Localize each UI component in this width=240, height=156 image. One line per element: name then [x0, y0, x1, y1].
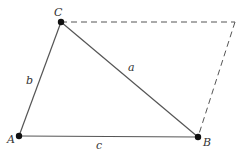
vertex-b-label: B [202, 136, 211, 149]
vertex-c-point [58, 19, 64, 25]
dashed-line-right [198, 22, 235, 137]
side-c [19, 136, 198, 137]
vertex-c-label: C [54, 6, 63, 19]
side-c-label: c [96, 139, 102, 152]
vertex-a-label: A [6, 133, 15, 146]
side-a [61, 22, 198, 137]
vertex-a-point [16, 133, 22, 139]
side-a-label: a [128, 61, 135, 74]
vertex-b-point [195, 134, 201, 140]
side-b-label: b [26, 74, 33, 87]
triangle-diagram: A B C a b c [0, 0, 240, 156]
